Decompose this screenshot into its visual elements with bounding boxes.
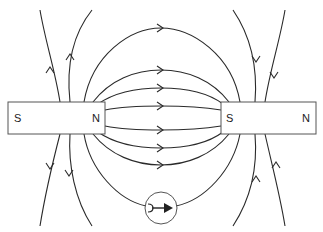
direction-arrows (157, 24, 163, 169)
magnetic-field-diagram: S N S N (0, 0, 323, 232)
left-magnet: S N (8, 102, 105, 134)
right-magnet: S N (221, 102, 316, 134)
field-lines-canvas: S N S N (0, 0, 323, 232)
compass-icon (145, 192, 177, 224)
left-magnet-n-label: N (92, 112, 100, 124)
left-magnet-s-label: S (14, 112, 21, 124)
right-magnet-s-label: S (226, 112, 233, 124)
right-magnet-n-label: N (302, 112, 310, 124)
